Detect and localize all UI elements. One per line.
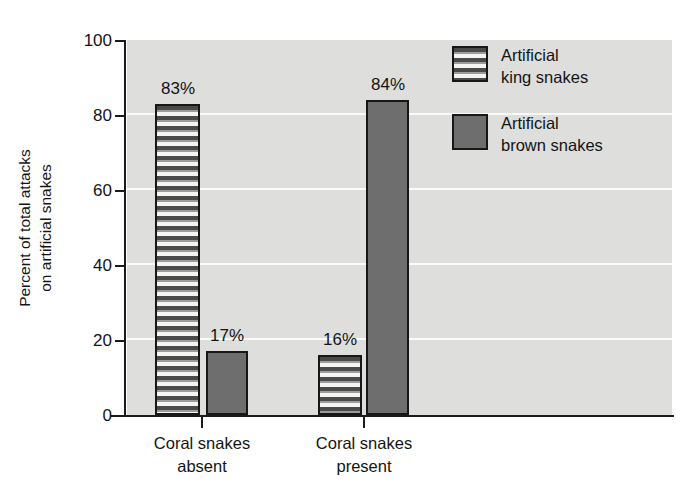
y-tick-label-60: 60 xyxy=(66,182,112,199)
y-tick-mark-40 xyxy=(115,265,124,267)
bar-value-label-16: 16% xyxy=(312,331,368,348)
legend-label-brown-snakes-line2: brown snakes xyxy=(501,134,603,156)
legend-swatch-solid-icon xyxy=(452,114,488,150)
bar-brown-snakes-present[interactable] xyxy=(366,100,409,415)
legend-swatch-striped-icon xyxy=(452,46,488,82)
y-axis-line xyxy=(124,40,126,416)
legend-label-king-snakes-line2: king snakes xyxy=(501,66,588,88)
bar-value-label-83: 83% xyxy=(150,80,206,97)
y-axis-title-line1: Percent of total attacks xyxy=(14,149,35,307)
y-tick-labels: 100 80 60 40 20 0 xyxy=(66,0,112,493)
x-axis-line xyxy=(110,415,674,417)
x-tick-mark-group-1 xyxy=(201,417,203,428)
legend-label-brown-snakes-line1: Artificial xyxy=(501,112,603,134)
legend-item-brown-snakes[interactable]: Artificial brown snakes xyxy=(452,112,603,156)
y-tick-mark-80 xyxy=(115,115,124,117)
legend-label-king-snakes: Artificial king snakes xyxy=(501,44,588,88)
bar-king-snakes-present[interactable] xyxy=(318,355,362,415)
x-axis-label-coral-snakes-present: Coral snakes present xyxy=(269,432,459,478)
bar-king-snakes-absent[interactable] xyxy=(155,104,200,415)
legend-item-king-snakes[interactable]: Artificial king snakes xyxy=(452,44,588,88)
bar-value-label-84: 84% xyxy=(360,76,416,93)
x-tick-mark-group-2 xyxy=(363,417,365,428)
y-tick-label-40: 40 xyxy=(66,257,112,274)
y-tick-label-0: 0 xyxy=(66,407,112,424)
y-tick-mark-100 xyxy=(115,40,124,42)
x-axis-label-present-line1: Coral snakes xyxy=(269,432,459,455)
bar-value-label-17: 17% xyxy=(199,327,255,344)
bar-chart-figure: Artificial king snakes Artificial brown … xyxy=(0,0,688,493)
y-tick-mark-0 xyxy=(115,415,124,417)
y-tick-mark-60 xyxy=(115,190,124,192)
legend-label-king-snakes-line1: Artificial xyxy=(501,44,588,66)
plot-area: Artificial king snakes Artificial brown … xyxy=(127,40,672,415)
y-axis-title: Percent of total attacks on artificial s… xyxy=(6,40,64,415)
legend-label-brown-snakes: Artificial brown snakes xyxy=(501,112,603,156)
bar-brown-snakes-absent[interactable] xyxy=(206,351,248,415)
y-tick-label-20: 20 xyxy=(66,332,112,349)
y-tick-mark-20 xyxy=(115,340,124,342)
x-axis-label-present-line2: present xyxy=(269,455,459,478)
y-tick-label-100: 100 xyxy=(66,32,112,49)
y-tick-label-80: 80 xyxy=(66,107,112,124)
y-axis-title-line2: on artificial snakes xyxy=(35,149,56,307)
